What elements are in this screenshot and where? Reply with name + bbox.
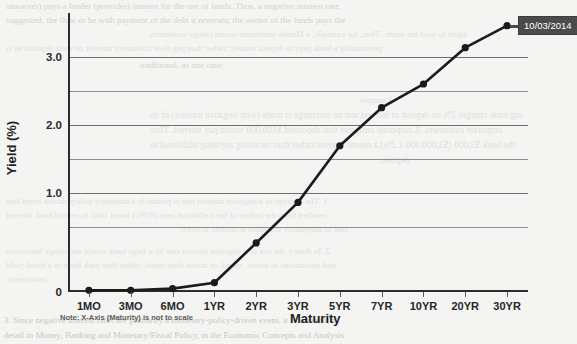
data-point[interactable] [253,239,260,246]
x-tick-label: 2YR [245,300,266,312]
x-tick-label: 6MO [161,300,185,312]
x-axis-tick [89,292,90,297]
date-callout-badge[interactable]: 10/03/2014 [519,17,577,34]
data-point[interactable] [294,199,301,206]
x-tick-label: 1MO [77,300,101,312]
x-tick-label: 3MO [119,300,143,312]
x-tick-label: 10YR [410,300,438,312]
x-axis-tick [423,292,424,297]
callout-stem [510,25,519,28]
x-axis-tick [214,292,215,297]
data-point[interactable] [211,279,218,286]
x-tick-label: 20YR [452,300,480,312]
chart-footnote: Note: X-Axis (Maturity) is not to scale [60,313,193,322]
x-axis-tick [465,292,466,297]
data-point[interactable] [378,104,385,111]
x-tick-label: 7YR [371,300,392,312]
x-axis-title: Maturity [290,311,341,326]
x-axis-tick [256,292,257,297]
x-tick-label: 30YR [493,300,521,312]
x-tick-label: 1YR [204,300,225,312]
x-axis-tick [131,292,132,297]
data-point[interactable] [462,44,469,51]
x-axis-tick [507,292,508,297]
data-point[interactable] [336,142,343,149]
x-axis-tick [173,292,174,297]
x-axis-tick [340,292,341,297]
x-axis-tick [298,292,299,297]
data-point[interactable] [420,80,427,87]
x-axis-tick [382,292,383,297]
